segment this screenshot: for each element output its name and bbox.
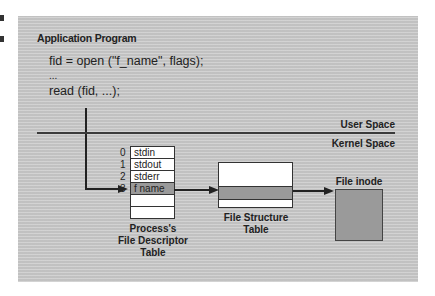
file-inode-label: File inode	[324, 176, 394, 188]
code-line-open: fid = open ("f_name", flags);	[49, 54, 203, 68]
fd-table-caption: Process's File Descriptor Table	[108, 223, 198, 259]
code-line-read: read (fid, ...);	[49, 84, 120, 98]
fd-row: 1stdout	[131, 159, 174, 171]
arrowhead-icon	[324, 187, 334, 195]
user-kernel-divider	[37, 132, 395, 134]
fst-to-inode-arrow	[293, 190, 325, 192]
read-arrow-horizontal	[85, 188, 119, 190]
caption-line: Process's	[108, 223, 198, 235]
file-structure-entry-highlighted	[219, 186, 292, 200]
file-structure-caption: File Structure Table	[210, 212, 302, 236]
fd-label: stdin	[134, 147, 155, 158]
code-line-ellipsis: ...	[49, 70, 57, 81]
fd-row: 0stdin	[131, 147, 174, 159]
fd-label: f name	[134, 183, 165, 194]
fd-index: 1	[120, 159, 126, 170]
caption-line: File Descriptor	[108, 235, 198, 247]
caption-line: File Structure	[210, 212, 302, 224]
fd-index: 3	[120, 183, 126, 194]
diagram-panel: Application Program fid = open ("f_name"…	[18, 16, 418, 282]
user-space-label: User Space	[298, 119, 395, 130]
caption-line: Table	[108, 247, 198, 259]
fd-label: stdout	[134, 159, 161, 170]
edge-fragment	[0, 15, 4, 21]
fd-label: stderr	[134, 171, 160, 182]
fd-row-highlighted: 3f name	[131, 183, 174, 195]
application-program-title: Application Program	[37, 32, 136, 44]
edge-fragment	[0, 36, 4, 42]
file-descriptor-table: 0stdin 1stdout 2stderr 3f name	[130, 146, 175, 219]
fd-to-fst-arrow	[174, 189, 210, 191]
fd-index: 2	[120, 171, 126, 182]
file-structure-table	[218, 162, 293, 208]
fd-row-empty	[131, 195, 174, 207]
fd-row-empty	[131, 207, 174, 218]
fd-index: 0	[120, 147, 126, 158]
read-arrow-vertical	[85, 108, 87, 190]
file-inode-box	[335, 189, 383, 241]
fd-row: 2stderr	[131, 171, 174, 183]
kernel-space-label: Kernel Space	[298, 138, 395, 149]
caption-line: Table	[210, 224, 302, 236]
